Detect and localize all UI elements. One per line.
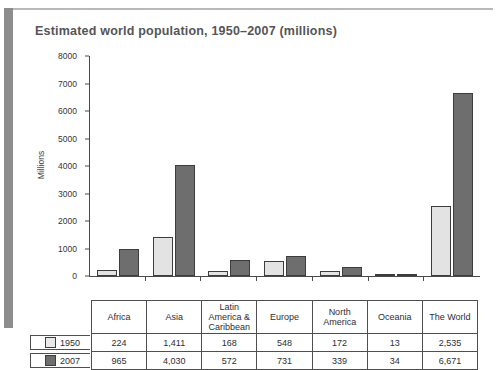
y-axis-tick-label: 7000 [58,79,77,89]
y-axis-tick-label: 1000 [58,244,77,254]
bar-1950 [97,270,117,276]
x-axis-line [89,276,480,277]
bars-container [90,56,480,276]
plot-area: Millions 8000700060005000400030002000100… [13,48,493,300]
table-cell: 224 [92,334,147,352]
x-axis-tick-mark [200,276,201,281]
table-cell: 2,535 [422,334,477,352]
bar-2007 [453,93,473,276]
table-column-header: Oceania [367,301,422,334]
table-cell: 34 [367,352,422,370]
bar-1950 [375,274,395,276]
bar-2007 [397,274,417,276]
bar-1950 [153,237,173,276]
table-column-header: Europe [257,301,312,334]
column-header-line: America & [203,312,255,322]
y-axis-tick-label: 6000 [58,106,77,116]
table-column-header: LatinAmerica &Caribbean [202,301,257,334]
table-cell: 13 [367,334,422,352]
table-cell: 168 [202,334,257,352]
y-axis-tick-label: 5000 [58,134,77,144]
table-cell: 4,030 [147,352,202,370]
table-cell: 965 [92,352,147,370]
x-axis-tick-mark [423,276,424,281]
table-cell: 172 [312,334,367,352]
bar-group [257,56,313,276]
column-header-line: Asia [148,312,200,322]
table-cell: 6,671 [422,352,477,370]
bar-group [146,56,202,276]
bar-2007 [342,267,362,276]
data-table-body: AfricaAsiaLatinAmerica &CaribbeanEuropeN… [29,301,478,370]
chart-figure: Estimated world population, 1950–2007 (m… [13,10,493,355]
table-cell: 731 [257,352,312,370]
bar-group [369,56,425,276]
table-row: 20079654,030572731339346,671 [29,352,478,370]
column-header-line: The World [424,312,476,322]
y-axis-ticks: 800070006000500040003000200010000 [41,56,85,276]
legend-label-2007: 2007 [60,356,80,366]
legend-swatch-1950 [45,337,56,348]
y-axis-tick-label: 8000 [58,51,77,61]
table-cell: 572 [202,352,257,370]
legend-label-1950: 1950 [60,338,80,348]
table-header-row: AfricaAsiaLatinAmerica &CaribbeanEuropeN… [29,301,478,334]
y-axis-tick-label: 4000 [58,161,77,171]
column-header-line: Caribbean [203,322,255,332]
legend-entry: 2007 [30,353,90,368]
table-row: 19502241,411168548172132,535 [29,334,478,352]
bar-group [313,56,369,276]
bar-group [424,56,480,276]
bar-group [90,56,146,276]
bar-2007 [175,165,195,276]
column-header-line: North [314,307,366,317]
bar-2007 [230,260,250,276]
y-axis-tick-label: 2000 [58,216,77,226]
table-cell: 1,411 [147,334,202,352]
legend-cell-1950: 1950 [29,334,92,352]
page-scan-left-edge [4,8,13,328]
table-cell: 548 [257,334,312,352]
bar-2007 [286,256,306,276]
x-axis-tick-mark [145,276,146,281]
x-axis-tick-mark [368,276,369,281]
y-axis-tick-label: 0 [72,271,77,281]
table-corner-cell [29,301,92,334]
column-header-line: Oceania [369,312,421,322]
bar-1950 [431,206,451,276]
legend-cell-2007: 2007 [29,352,92,370]
column-header-line: America [314,317,366,327]
bar-2007 [119,249,139,276]
table-cell: 339 [312,352,367,370]
x-axis-tick-mark [312,276,313,281]
data-table: AfricaAsiaLatinAmerica &CaribbeanEuropeN… [29,300,478,370]
y-axis-tick-label: 3000 [58,189,77,199]
column-header-line: Latin [203,302,255,312]
table-column-header: The World [422,301,477,334]
bar-1950 [264,261,284,276]
table-column-header: Asia [147,301,202,334]
legend-swatch-2007 [45,355,56,366]
table-column-header: Africa [92,301,147,334]
x-axis-tick-mark [256,276,257,281]
table-column-header: NorthAmerica [312,301,367,334]
column-header-line: Africa [93,312,145,322]
column-header-line: Europe [258,312,310,322]
chart-title: Estimated world population, 1950–2007 (m… [35,24,337,38]
bar-1950 [208,271,228,276]
legend-entry: 1950 [30,335,90,350]
bar-1950 [320,271,340,276]
bar-group [201,56,257,276]
